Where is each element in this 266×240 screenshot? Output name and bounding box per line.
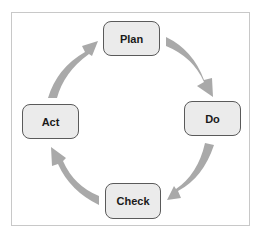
node-check-label: Check: [116, 195, 149, 207]
node-check: Check: [105, 183, 161, 219]
arrow-act-to-plan: [48, 41, 98, 98]
arrow-plan-to-do: [166, 37, 213, 97]
node-do: Do: [184, 101, 241, 136]
node-do-label: Do: [205, 113, 220, 125]
arrow-check-to-act: [51, 147, 99, 205]
node-plan: Plan: [103, 21, 160, 56]
node-act: Act: [22, 104, 79, 139]
node-plan-label: Plan: [120, 33, 143, 45]
arrow-do-to-check: [167, 143, 214, 200]
node-act-label: Act: [42, 116, 60, 128]
